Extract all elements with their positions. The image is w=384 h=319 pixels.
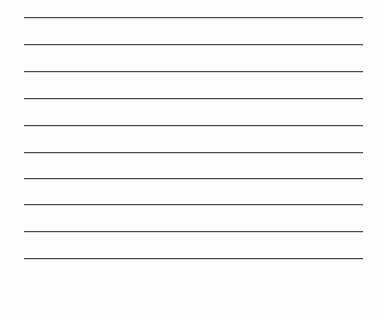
rule-line-10 [24, 258, 363, 259]
rule-line-5 [24, 125, 363, 126]
rule-line-2 [24, 44, 363, 45]
rule-line-8 [24, 204, 363, 205]
rule-line-9 [24, 231, 363, 232]
lined-paper-sheet [0, 0, 384, 319]
rule-line-4 [24, 98, 363, 99]
rule-line-1 [24, 17, 363, 18]
rule-line-3 [24, 71, 363, 72]
rule-line-7 [24, 178, 363, 179]
rule-line-6 [24, 152, 363, 153]
